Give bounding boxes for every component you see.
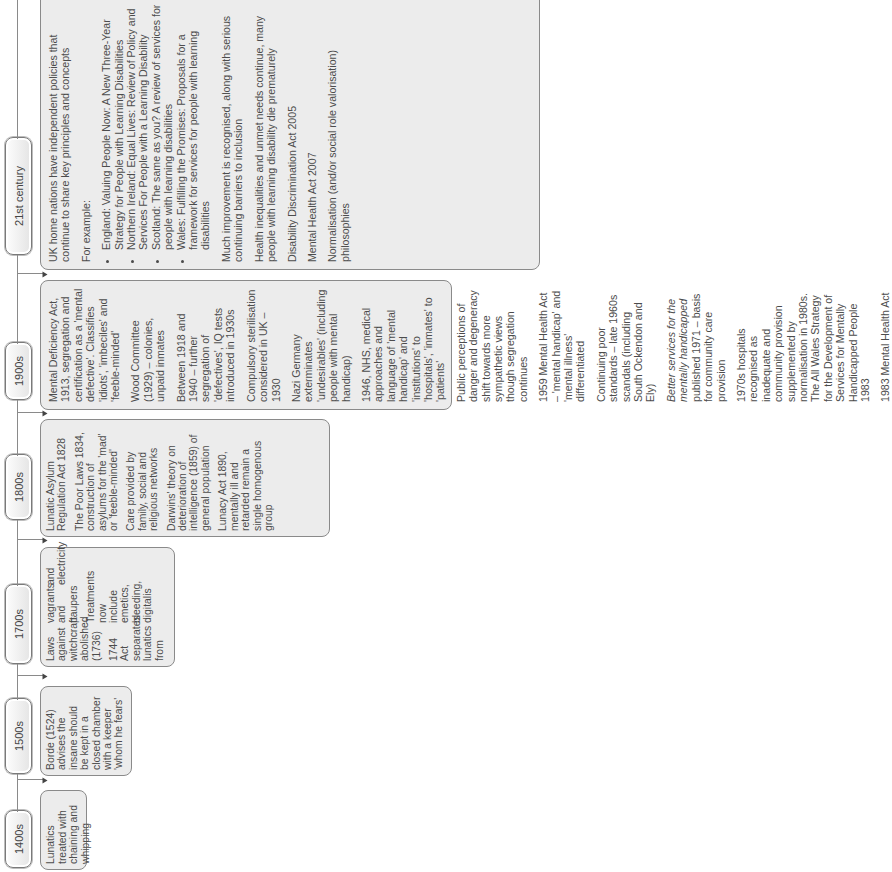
era-item: Compulsory sterilisation considered in U… [245,288,282,402]
era-item: 1959 Mental Health Act – 'mental handica… [537,288,587,402]
connector-arrow-icon [43,538,48,544]
era-item: Darwins' theory on deterioration of inte… [166,425,212,531]
era-label: 1900s [13,356,25,386]
era-label: 1400s [13,824,25,854]
connector-line [17,0,18,139]
era-item: Much improvement is recognised, along wi… [220,0,245,262]
era-item: 1970s hospitals recognised as inadequate… [735,288,871,402]
connector-line [17,539,45,540]
era-box-1800s: Lunatic Asylum Regulation Act 1828 The P… [40,419,330,537]
era-item: Continuing poor standards – late 1960s s… [595,288,657,402]
era-label: 21st century [13,166,25,226]
era-tab-1800s: 1800s [5,454,32,520]
connector-line [17,400,18,456]
connector-line [17,675,45,676]
era-item: Nazi Germany exterminates 'undesirables'… [290,288,352,402]
policy-item-england: England: Valuing People Now: A New Three… [100,0,125,250]
era-item: Public perceptions of danger and degener… [455,288,529,402]
connector-line [17,412,45,413]
era-item: Laws against witchcraft abolished (1736) [45,629,102,661]
era-label: 1700s [13,609,25,639]
era-box-1400s: Lunatics treated with chaining and whipp… [40,790,87,870]
connector-line [17,520,18,586]
era-item-better-services: Better services for the mentally handica… [665,288,727,402]
connector-arrow-icon [43,674,48,680]
era-tab-1900s: 1900s [5,342,32,400]
era-box-1500s: Borde (1524) advises the insane should b… [40,686,132,776]
connector-arrow-icon [43,411,48,417]
era-item: Mental Deficiency Act, 1913, segregation… [47,288,121,402]
connector-line [17,664,18,700]
connector-arrow-icon [43,272,48,278]
connector-arrow-icon [43,778,48,784]
era-tab-1500s: 1500s [5,698,32,774]
era-box-1700s: Laws against witchcraft abolished (1736)… [40,547,175,667]
policy-item-scotland: Scotland: The same as you? A review of s… [150,0,175,250]
era-item: Mental Health Act 2007 [306,0,318,262]
era-item: Care provided by family, social and reli… [125,425,159,531]
era-item: 1946, NHS, medical approaches and langua… [360,288,447,402]
era-item: Lunatic Asylum Regulation Act 1828 [45,425,68,531]
era-label: 1500s [13,721,25,751]
policy-item-northern-ireland: Northern Ireland: Equal Lives: Review of… [125,0,150,250]
era-item: Between 1918 and 1940 – further segregat… [175,288,237,402]
era-for-example: For example: [80,0,92,262]
era-item: Lunatics treated with chaining and whipp… [45,796,91,864]
era-item-rest: published 1971 – basis for community car… [690,294,727,402]
era-item: 1983 Mental Health Act [879,288,891,402]
policy-item-wales: Wales: Fulfilling the Promises: Proposal… [175,0,212,250]
era-item-italic-title: Better services for the mentally handica… [665,299,689,402]
era-item: Lunacy Act 1890, mentally ill and retard… [217,425,274,531]
connector-line [17,273,45,274]
era-tab-1700s: 1700s [5,584,32,664]
policy-list: England: Valuing People Now: A New Three… [100,0,212,262]
era-box-21st-century: UK home nations have independent policie… [40,0,540,270]
connector-line [17,255,18,344]
era-item: Wood Committee (1929) – colonies, unpaid… [129,288,166,402]
era-tab-21st-century: 21st century [5,137,32,255]
connector-line [17,779,45,780]
era-intro: UK home nations have independent policie… [47,0,72,262]
era-item: Disability Discrimination Act 2005 [286,0,298,262]
era-item: Normalisation (and/or social role valori… [326,0,351,262]
era-item: Health inequalities and unmet needs cont… [253,0,278,262]
era-item: The Poor Laws 1834, construction of asyl… [74,425,120,531]
era-tab-1400s: 1400s [5,810,32,868]
era-box-1900s: Mental Deficiency Act, 1913, segregation… [40,280,452,410]
era-item: Borde (1524) advises the insane should b… [45,692,125,770]
era-label: 1800s [13,472,25,502]
